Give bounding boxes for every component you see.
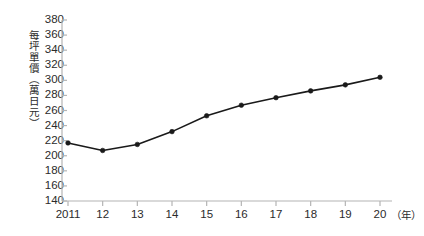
axis-lines [62,20,392,201]
x-axis-ticks [68,201,380,206]
data-point-marker [378,75,383,80]
data-point-marker [343,83,348,88]
plot-area [0,0,424,236]
data-point-marker [274,95,279,100]
data-point-marker [204,113,209,118]
line-chart: 每坪單價（萬日元） 380360340320300280260240220200… [0,0,424,236]
data-point-marker [308,89,313,94]
data-point-marker [66,141,71,146]
data-point-marker [239,103,244,108]
data-series-line [68,77,380,150]
data-point-marker [135,142,140,147]
data-point-marker [100,148,105,153]
data-point-marker [170,129,175,134]
y-axis-ticks [62,20,67,201]
